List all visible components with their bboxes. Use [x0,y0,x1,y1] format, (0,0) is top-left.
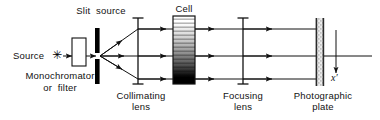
starburst-light-source-icon: ✳ [52,49,62,61]
sample-cell [173,16,195,84]
collimating-lens [133,18,144,84]
focusing-lens [238,18,249,84]
cell-label: Cell [166,3,202,14]
focusing-lens-label-line2: lens [217,101,269,112]
focusing-lens-label-line1: Focusing [217,90,269,101]
photographic-plate-label-line2: plate [288,101,358,112]
slit-source-label: Slit source [58,5,144,16]
photographic-plate-label-line1: Photographic [288,90,358,101]
monochromator-label-line2: or filter [4,82,116,93]
collimating-lens-label-line2: lens [112,101,170,112]
rays-cell-to-focusing-lens [195,29,243,79]
collimated-rays-to-cell [138,29,173,79]
source-label: Source [13,50,44,61]
optical-apparatus-diagram: ✳ Source Monochromator or filter Slit so… [0,0,380,120]
rays-to-photographic-plate [243,29,316,79]
monochromator-box [72,38,86,66]
photographic-plate [316,18,324,86]
collimating-lens-label-line1: Collimating [112,90,170,101]
monochromator-label-line1: Monochromator [4,70,116,81]
x-prime-axis-label: x′ [331,72,338,83]
